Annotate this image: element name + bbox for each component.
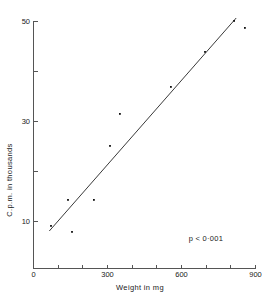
axes-group	[33, 21, 256, 269]
data-point	[244, 27, 246, 29]
y-tick-label-50: 50	[22, 17, 30, 26]
x-tick-label-0: 0	[31, 270, 35, 279]
p-value-annotation: p < 0·001	[189, 234, 224, 243]
x-axis-ticks	[34, 265, 256, 269]
data-point	[119, 113, 121, 115]
data-point	[71, 231, 73, 233]
x-axis-tick-labels: 0 300 600 900	[31, 270, 261, 279]
data-point	[109, 145, 111, 147]
x-tick-label-600: 600	[175, 270, 188, 279]
y-tick-label-10: 10	[22, 217, 30, 226]
regression-line	[49, 18, 236, 231]
data-point	[233, 20, 235, 22]
scatter-chart-figure: 50 30 10 0 300 600 900 Weight in mg C.p.…	[0, 0, 268, 303]
data-point	[50, 225, 52, 227]
chart-canvas: 50 30 10 0 300 600 900 Weight in mg C.p.…	[0, 0, 268, 303]
y-tick-label-30: 30	[22, 117, 30, 126]
data-points-group	[50, 20, 246, 233]
x-tick-label-900: 900	[249, 270, 262, 279]
data-point	[93, 199, 95, 201]
y-axis-ticks	[34, 22, 38, 222]
data-point	[170, 86, 172, 88]
data-point	[204, 51, 206, 53]
x-tick-label-300: 300	[101, 270, 114, 279]
y-axis-title: C.p.m. in thousands	[5, 143, 14, 216]
x-axis-title: Weight in mg	[116, 283, 164, 292]
y-axis-tick-labels: 50 30 10	[22, 17, 30, 226]
data-point	[67, 199, 69, 201]
